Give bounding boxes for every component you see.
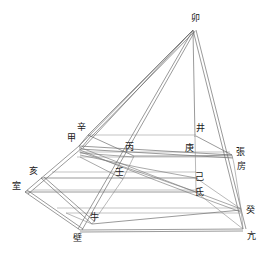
vertex-label-xin: 辛	[77, 123, 86, 132]
vertex-label-zhang: 張	[236, 148, 245, 157]
pyramid-edges	[78, 30, 246, 230]
diagram-canvas: 卯 辛 甲 井 丙 庚 張 房 亥 壬 己 室 氐 癸 牛 壁 亢	[0, 0, 269, 255]
vertex-label-hai: 亥	[29, 167, 38, 176]
vertex-label-bi: 壁	[73, 234, 82, 243]
vertex-label-jia: 甲	[67, 134, 76, 143]
vertex-label-kang: 亢	[247, 232, 256, 241]
vertex-label-ren: 壬	[115, 168, 124, 177]
diagram-svg	[0, 0, 269, 255]
horizontal-section-lines	[33, 135, 241, 213]
vertex-label-mao: 卯	[191, 14, 200, 23]
edge-bi-kang-a	[80, 229, 243, 230]
chord-jia-gui-inner	[80, 150, 241, 212]
vertex-label-fang: 房	[237, 162, 246, 171]
vertex-label-gui: 癸	[246, 206, 255, 215]
vertex-label-ji: 己	[195, 173, 204, 182]
edge-hai-niu-b	[44, 177, 95, 222]
vertex-label-geng: 庚	[185, 144, 194, 153]
edge-mao-xin-b	[91, 32, 194, 137]
edge-shi-bi-a	[25, 192, 80, 230]
vertex-label-shi: 室	[12, 182, 21, 191]
edge-mao-xin-a	[88, 30, 193, 135]
edge-geng-zhang	[192, 155, 232, 156]
connector-niu-row	[66, 213, 92, 224]
edge-niu-gui	[92, 210, 241, 224]
vertex-label-niu: 牛	[90, 213, 99, 222]
chord-jia-ji	[80, 155, 196, 178]
base-quadrilateral	[25, 146, 243, 232]
edge-mao-jing	[193, 31, 195, 137]
connector-jing-di	[195, 136, 196, 192]
vertex-label-bing: 丙	[125, 143, 134, 152]
edge-bi-kang-b	[80, 231, 243, 232]
connector-zhang-fang	[232, 155, 234, 164]
vertex-label-jing: 井	[196, 124, 205, 133]
edge-shi-bi-b	[27, 190, 83, 229]
vertex-label-di: 氐	[195, 188, 204, 197]
